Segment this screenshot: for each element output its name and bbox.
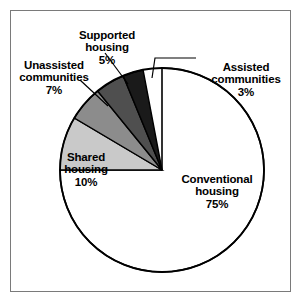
slice-label-shared-value: 10% bbox=[55, 176, 117, 189]
slice-label-shared: Shared housing 10% bbox=[55, 138, 117, 201]
slice-label-unassisted-value: 7% bbox=[8, 84, 100, 97]
slice-label-assisted-value: 3% bbox=[198, 86, 294, 99]
slice-label-unassisted: Unassisted communities 7% bbox=[8, 46, 100, 109]
slice-label-conventional-name: Conventional housing bbox=[181, 173, 252, 198]
slice-label-shared-name: Shared housing bbox=[64, 151, 108, 176]
pie-chart-figure: Supported housing 5% Unassisted communit… bbox=[0, 0, 302, 303]
slice-label-assisted: Assisted communities 3% bbox=[198, 48, 294, 111]
slice-label-unassisted-name: Unassisted communities bbox=[19, 59, 88, 84]
slice-label-conventional: Conventional housing 75% bbox=[170, 160, 264, 223]
slice-label-conventional-value: 75% bbox=[170, 198, 264, 211]
slice-label-assisted-name: Assisted communities bbox=[211, 61, 280, 86]
